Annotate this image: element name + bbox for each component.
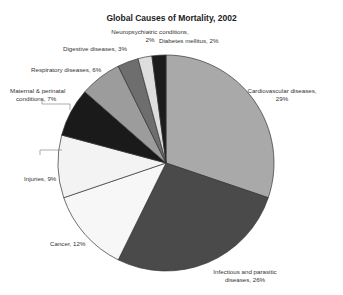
label-respiratory: Respiratory diseases, 6%: [31, 66, 101, 74]
label-injuries: Injuries, 9%: [24, 175, 56, 183]
label-diabetes: Diabetes mellitus, 2%: [159, 37, 219, 45]
label-digestive: Digestive diseases, 3%: [63, 45, 127, 53]
label-cancer: Cancer, 12%: [50, 240, 85, 248]
label-cardiovascular: Cardiovascular diseases, 29%: [242, 87, 322, 103]
label-maternal: Maternal & perinatal conditions, 7%: [10, 87, 80, 103]
label-infectious: Infectious and parasitic diseases, 26%: [190, 268, 300, 284]
